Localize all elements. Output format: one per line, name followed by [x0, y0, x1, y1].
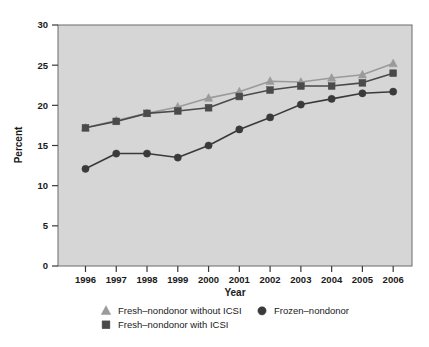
square-marker [82, 124, 89, 131]
circle-marker [359, 90, 366, 97]
legend-label: Fresh–nondonor without ICSI [118, 305, 242, 316]
square-marker [359, 79, 366, 86]
plot-area-background [58, 25, 412, 266]
circle-marker [174, 154, 181, 161]
y-tick-label: 5 [43, 220, 49, 231]
circle-marker [328, 95, 335, 102]
x-tick-label: 2000 [198, 274, 219, 285]
circle-marker [258, 307, 266, 315]
circle-marker [143, 150, 150, 157]
x-tick-label: 2005 [352, 274, 374, 285]
line-chart: 051015202530 199619971998199920002001200… [0, 0, 429, 347]
x-tick-label: 2001 [229, 274, 251, 285]
y-tick-label: 0 [43, 260, 48, 271]
x-tick-label: 1996 [75, 274, 96, 285]
y-tick-label: 25 [37, 60, 48, 71]
x-tick-label: 2002 [260, 274, 281, 285]
y-tick-label: 10 [37, 180, 48, 191]
x-tick-label: 2004 [321, 274, 343, 285]
y-axis-title: Percent [13, 126, 24, 163]
square-marker [205, 104, 212, 111]
circle-marker [236, 126, 243, 133]
circle-marker [205, 142, 212, 149]
x-tick-label: 2006 [383, 274, 404, 285]
x-tick-label: 1999 [167, 274, 188, 285]
square-marker [267, 87, 274, 94]
square-marker [328, 83, 335, 90]
x-tick-label: 1997 [106, 274, 127, 285]
circle-marker [390, 88, 397, 95]
y-tick-label: 15 [37, 140, 48, 151]
y-tick-label: 20 [37, 100, 48, 111]
circle-marker [297, 101, 304, 108]
square-marker [144, 110, 151, 117]
legend-label: Fresh–nondonor with ICSI [118, 319, 228, 330]
chart-figure: 051015202530 199619971998199920002001200… [0, 0, 429, 347]
x-tick-label: 2003 [290, 274, 311, 285]
circle-marker [113, 150, 120, 157]
square-marker [174, 108, 181, 115]
square-marker [390, 70, 397, 77]
legend-label: Frozen–nondonor [274, 305, 349, 316]
square-marker [113, 118, 120, 125]
circle-marker [267, 114, 274, 121]
circle-marker [82, 165, 89, 172]
x-tick-label: 1998 [136, 274, 157, 285]
square-marker [236, 93, 243, 100]
square-marker [297, 83, 304, 90]
y-tick-label: 30 [37, 19, 48, 30]
square-marker [102, 321, 110, 329]
x-axis-title: Year [224, 287, 245, 298]
